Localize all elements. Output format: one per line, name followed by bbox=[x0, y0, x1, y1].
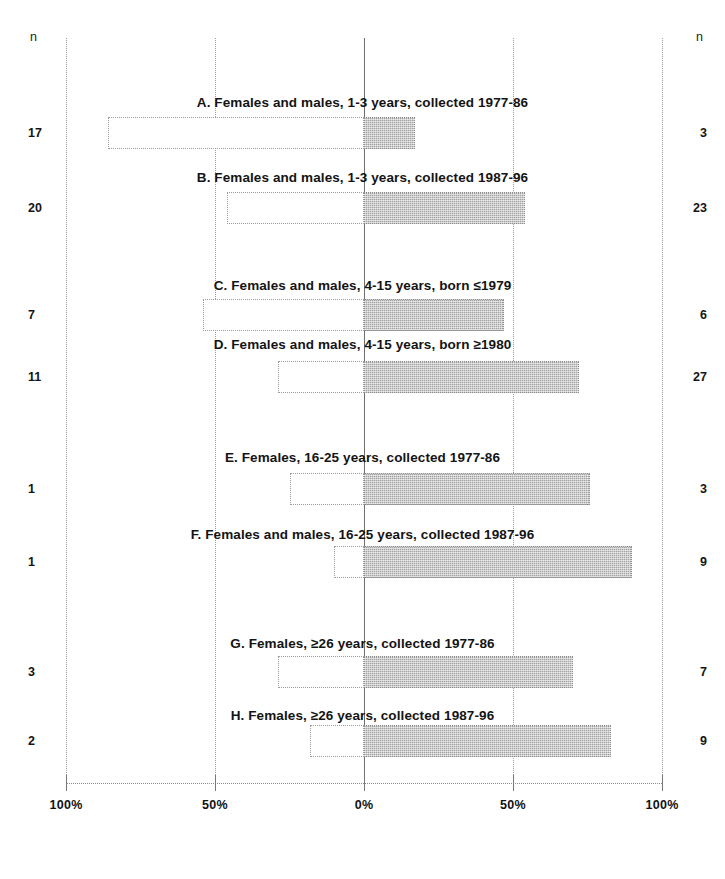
bar-right-h bbox=[364, 725, 611, 757]
panel-title-a: A. Females and males, 1-3 years, collect… bbox=[0, 95, 725, 110]
x-tick-label-0: 100% bbox=[49, 798, 82, 812]
bar-right-d bbox=[364, 361, 579, 393]
bar-left-c bbox=[203, 299, 364, 331]
bar-left-f bbox=[334, 546, 364, 578]
x-axis-tick-zero bbox=[364, 775, 365, 791]
panel-title-h: H. Females, ≥26 years, collected 1987-96 bbox=[0, 708, 725, 723]
bar-right-b bbox=[364, 192, 525, 224]
n-left-d: 11 bbox=[28, 370, 41, 384]
diverging-bar-chart: n n 100% 50% 0% 50% 100% A. Females and … bbox=[0, 0, 725, 879]
gridline-minus-100 bbox=[66, 38, 67, 783]
bar-right-g bbox=[364, 656, 573, 688]
x-tick-label-2: 0% bbox=[355, 798, 374, 812]
x-tick-label-3: 50% bbox=[500, 798, 526, 812]
x-tick-label-4: 100% bbox=[645, 798, 678, 812]
n-right-c: 6 bbox=[700, 308, 707, 322]
panel-title-b: B. Females and males, 1-3 years, collect… bbox=[0, 170, 725, 185]
panel-title-d: D. Females and males, 4-15 years, born ≥… bbox=[0, 337, 725, 352]
n-right-a: 3 bbox=[700, 126, 707, 140]
gridline-minus-50 bbox=[215, 38, 216, 783]
left-n-header: n bbox=[30, 30, 37, 44]
n-right-b: 23 bbox=[693, 201, 707, 215]
n-right-g: 7 bbox=[700, 665, 707, 679]
x-tick-label-1: 50% bbox=[202, 798, 228, 812]
bar-left-b bbox=[227, 192, 364, 224]
right-n-header: n bbox=[696, 30, 703, 44]
n-right-f: 9 bbox=[700, 555, 707, 569]
n-left-f: 1 bbox=[28, 555, 35, 569]
panel-title-f: F. Females and males, 16-25 years, colle… bbox=[0, 527, 725, 542]
panel-title-g: G. Females, ≥26 years, collected 1977-86 bbox=[0, 636, 725, 651]
x-axis-tick-plus-50 bbox=[513, 775, 514, 791]
n-left-g: 3 bbox=[28, 665, 35, 679]
x-axis-tick-plus-100 bbox=[662, 775, 663, 791]
n-right-h: 9 bbox=[700, 734, 707, 748]
n-left-h: 2 bbox=[28, 734, 35, 748]
panel-title-e: E. Females, 16-25 years, collected 1977-… bbox=[0, 450, 725, 465]
n-right-e: 3 bbox=[700, 482, 707, 496]
n-left-b: 20 bbox=[28, 201, 42, 215]
n-left-a: 17 bbox=[28, 126, 42, 140]
bar-left-e bbox=[290, 473, 365, 505]
bar-left-d bbox=[278, 361, 364, 393]
x-axis-tick-minus-50 bbox=[215, 775, 216, 791]
bar-left-h bbox=[310, 725, 364, 757]
x-axis-tick-minus-100 bbox=[66, 775, 67, 791]
n-right-d: 27 bbox=[693, 370, 707, 384]
n-left-e: 1 bbox=[28, 482, 35, 496]
bar-left-g bbox=[278, 656, 364, 688]
panel-title-c: C. Females and males, 4-15 years, born ≤… bbox=[0, 278, 725, 293]
bar-right-e bbox=[364, 473, 590, 505]
bar-right-c bbox=[364, 299, 504, 331]
bar-right-a bbox=[364, 117, 415, 149]
gridline-plus-100 bbox=[662, 38, 663, 783]
n-left-c: 7 bbox=[28, 308, 35, 322]
bar-left-a bbox=[108, 117, 364, 149]
bar-right-f bbox=[364, 546, 632, 578]
